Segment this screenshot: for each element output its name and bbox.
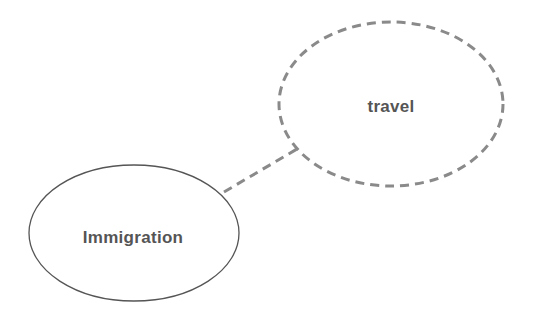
edge-immigration-travel[interactable] bbox=[224, 149, 297, 192]
node-immigration-label: Immigration bbox=[83, 228, 184, 248]
node-travel-label: travel bbox=[367, 97, 414, 117]
diagram-canvas bbox=[0, 0, 534, 318]
